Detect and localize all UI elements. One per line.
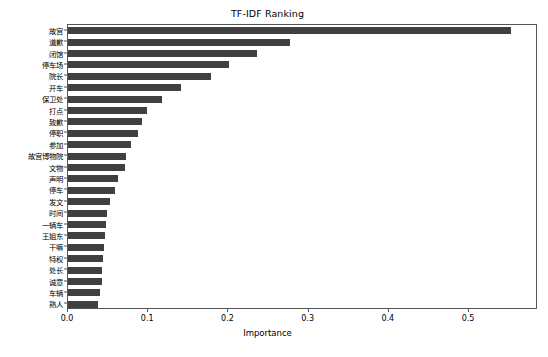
y-tick-label: 诚意	[49, 275, 63, 286]
bar-row	[68, 210, 536, 217]
x-tick-label: 0.2	[221, 314, 234, 323]
plot-area	[67, 24, 537, 309]
bar	[68, 39, 290, 46]
bar	[68, 84, 181, 91]
bar	[68, 61, 229, 68]
bar-row	[68, 301, 536, 308]
y-tick-label: 停车场	[42, 58, 63, 69]
bar	[68, 96, 162, 103]
x-tick-label: 0.5	[462, 314, 475, 323]
chart-figure: TF-IDF Ranking 故宫道歉闭馆停车场院长开车保卫处打点致歉停职参加故…	[0, 0, 548, 357]
y-tick-label: 停车	[49, 184, 63, 195]
y-tick-label: 王姐东	[42, 229, 63, 240]
bar-row	[68, 130, 536, 137]
y-tick-label: 致歉	[49, 115, 63, 126]
y-tick-label: 干嘛	[49, 241, 63, 252]
y-tick-label: 故宫博物院	[28, 150, 63, 161]
bar-row	[68, 73, 536, 80]
bar	[68, 278, 102, 285]
bar-row	[68, 244, 536, 251]
y-tick-label: 保卫处	[42, 93, 63, 104]
bar-row	[68, 289, 536, 296]
y-tick-label: 时间	[49, 207, 63, 218]
bar	[68, 210, 107, 217]
y-tick-label: 特权	[49, 252, 63, 263]
x-tick-mark	[67, 309, 68, 312]
bar-row	[68, 221, 536, 228]
chart-title: TF-IDF Ranking	[67, 8, 468, 19]
y-tick-label: 处长	[49, 264, 63, 275]
bar	[68, 301, 98, 308]
x-tick-label: 0.1	[141, 314, 154, 323]
y-tick-label: 开车	[49, 81, 63, 92]
bar	[68, 50, 257, 57]
bar	[68, 153, 126, 160]
bar	[68, 221, 106, 228]
y-tick-label: 声明	[49, 172, 63, 183]
bar	[68, 118, 142, 125]
bar-row	[68, 267, 536, 274]
bars-layer	[68, 25, 536, 308]
y-tick-label: 发文	[49, 195, 63, 206]
x-tick-label: 0.4	[381, 314, 394, 323]
y-tick-label: 院长	[49, 70, 63, 81]
bar-row	[68, 198, 536, 205]
bar-row	[68, 232, 536, 239]
bar-row	[68, 84, 536, 91]
y-tick-label: 闭馆	[49, 47, 63, 58]
bar-row	[68, 61, 536, 68]
bar	[68, 255, 103, 262]
y-tick-label: 故宫	[49, 24, 63, 35]
bar	[68, 27, 511, 34]
bar	[68, 267, 102, 274]
x-tick-mark	[147, 309, 148, 312]
bar	[68, 107, 147, 114]
x-axis: Importance 0.00.10.20.30.40.5	[0, 309, 548, 357]
bar-row	[68, 255, 536, 262]
bar	[68, 164, 125, 171]
bar-row	[68, 96, 536, 103]
y-tick-label: 停职	[49, 127, 63, 138]
x-tick-mark	[388, 309, 389, 312]
x-tick-label: 0.3	[301, 314, 314, 323]
bar	[68, 175, 118, 182]
bar	[68, 73, 211, 80]
bar-row	[68, 141, 536, 148]
bar-row	[68, 164, 536, 171]
y-tick-label: 道歉	[49, 36, 63, 47]
x-axis-title: Importance	[67, 328, 468, 338]
y-tick-label: 打点	[49, 104, 63, 115]
bar	[68, 289, 100, 296]
bar	[68, 232, 105, 239]
bar	[68, 198, 110, 205]
x-tick-mark	[308, 309, 309, 312]
bar-row	[68, 39, 536, 46]
bar-row	[68, 153, 536, 160]
y-tick-label: 一辆车	[42, 218, 63, 229]
y-tick-label: 文物	[49, 161, 63, 172]
bar-row	[68, 118, 536, 125]
y-tick-label: 参加	[49, 138, 63, 149]
x-tick-label: 0.0	[61, 314, 74, 323]
y-tick-label: 熟人	[49, 298, 63, 309]
x-tick-mark	[468, 309, 469, 312]
bar	[68, 187, 115, 194]
bar-row	[68, 50, 536, 57]
bar	[68, 244, 104, 251]
y-tick-label: 车辆	[49, 286, 63, 297]
bar-row	[68, 175, 536, 182]
bar	[68, 141, 131, 148]
bar	[68, 130, 138, 137]
bar-row	[68, 187, 536, 194]
x-tick-mark	[227, 309, 228, 312]
bar-row	[68, 27, 536, 34]
bar-row	[68, 278, 536, 285]
bar-row	[68, 107, 536, 114]
